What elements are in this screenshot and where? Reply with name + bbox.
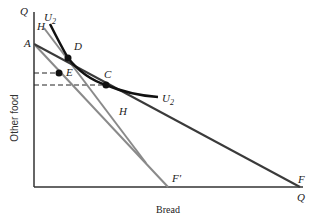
label-U2-right: U2: [162, 92, 174, 107]
label-F: F: [297, 173, 305, 185]
indifference-diagram: Q Q A F F′ H H U2 U2 D E C Other food Br…: [0, 0, 311, 221]
label-F-prime: F′: [171, 172, 182, 184]
subscript: 2: [170, 98, 174, 107]
label-E: E: [65, 66, 73, 78]
label-C: C: [104, 68, 112, 80]
label-U2-top: U2: [44, 11, 56, 26]
x-axis-title: Bread: [156, 204, 180, 215]
budget-line-AF-prime: [34, 44, 168, 187]
point-D: [65, 55, 72, 62]
subscript: 2: [52, 17, 56, 26]
point-E: [56, 70, 63, 77]
point-C: [103, 82, 110, 89]
x-axis-end-label: Q: [297, 191, 305, 203]
label-A: A: [23, 37, 31, 49]
label-D: D: [73, 40, 82, 52]
y-axis-end-label: Q: [20, 5, 28, 17]
label-H-bottom: H: [118, 105, 128, 117]
y-axis-title: Other food: [9, 94, 20, 141]
